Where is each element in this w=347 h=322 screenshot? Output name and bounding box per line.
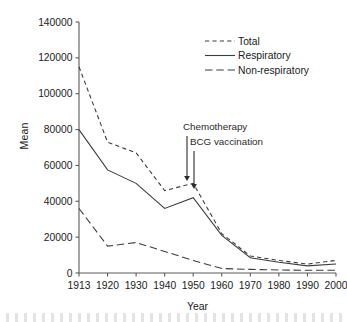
chart-legend: TotalRespiratoryNon-respiratory — [205, 36, 310, 76]
y-tick-label: 140000 — [38, 17, 73, 28]
legend-label: Non-respiratory — [238, 65, 310, 76]
annotation-label: Chemotherapy — [183, 121, 247, 132]
x-axis-ticks: 1913192019301940195019601970198019902000 — [68, 273, 347, 291]
x-tick-label: 1980 — [267, 280, 290, 291]
x-tick-label: 1970 — [239, 280, 262, 291]
legend-label: Total — [238, 36, 260, 47]
x-tick-label: 1960 — [210, 280, 233, 291]
y-tick-label: 40000 — [44, 196, 73, 207]
x-tick-label: 1930 — [125, 280, 148, 291]
legend-label: Respiratory — [238, 50, 291, 61]
x-tick-label: 2000 — [325, 280, 347, 291]
y-tick-label: 60000 — [44, 160, 73, 171]
chart-figure: Mean Year 020000400006000080000100000120… — [0, 0, 347, 322]
y-tick-label: 0 — [67, 268, 73, 279]
series-group — [79, 67, 336, 270]
annotation-arrow-head — [184, 176, 190, 181]
x-tick-label: 1950 — [182, 280, 205, 291]
chart-annotations: ChemotherapyBCG vaccination — [183, 121, 263, 189]
y-tick-label: 120000 — [38, 52, 73, 63]
x-tick-label: 1940 — [153, 280, 176, 291]
x-tick-label: 1913 — [68, 280, 91, 291]
x-tick-label: 1920 — [96, 280, 119, 291]
plot-area: 020000400006000080000100000120000140000 … — [0, 0, 347, 322]
y-tick-label: 100000 — [38, 88, 73, 99]
series-line — [79, 208, 336, 270]
x-tick-label: 1990 — [296, 280, 319, 291]
series-line — [79, 67, 336, 264]
page-scan-artifact — [0, 313, 347, 322]
y-tick-label: 80000 — [44, 124, 73, 135]
y-tick-label: 20000 — [44, 232, 73, 243]
y-axis-ticks: 020000400006000080000100000120000140000 — [38, 17, 79, 279]
annotation-label: BCG vaccination — [190, 136, 263, 147]
